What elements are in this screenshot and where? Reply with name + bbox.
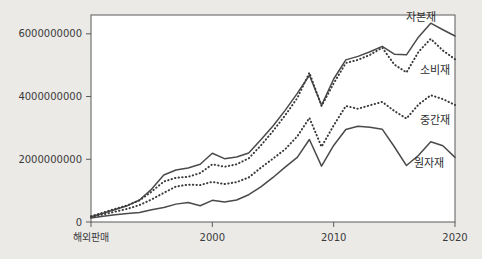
series-label-원자재: 원자재 [414, 157, 444, 170]
y-tick-label: 0 [76, 217, 82, 228]
x-tick-label: 해외판매 [73, 231, 109, 243]
series-label-소비재: 소비재 [420, 64, 450, 77]
chart-canvas: 0200000000040000000006000000000 해외판매2000… [0, 0, 482, 259]
y-tick-label: 6000000000 [18, 28, 82, 39]
x-tick-label: 2000 [200, 232, 225, 243]
x-tick-label: 2020 [442, 232, 467, 243]
y-tick-label: 2000000000 [18, 154, 82, 165]
chart-figure: 0200000000040000000006000000000 해외판매2000… [0, 0, 482, 259]
x-tick-label: 2010 [321, 232, 346, 243]
series-label-자본재: 자본재 [406, 11, 436, 24]
plot-background [91, 15, 455, 222]
y-tick-label: 4000000000 [18, 91, 82, 102]
series-label-중간재: 중간재 [420, 114, 450, 127]
